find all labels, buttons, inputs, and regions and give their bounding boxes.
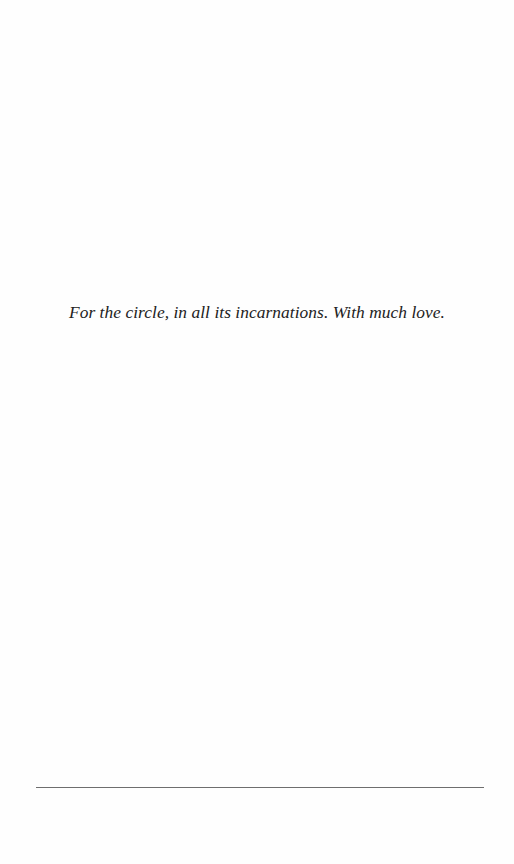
dedication-text: For the circle, in all its incarnations.… xyxy=(0,302,514,322)
footer-rule xyxy=(36,787,484,788)
book-page: For the circle, in all its incarnations.… xyxy=(0,0,514,864)
